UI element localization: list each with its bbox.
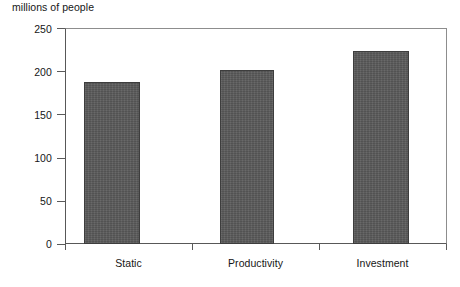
y-tick-label-50: 50 <box>8 196 52 207</box>
bar-static[interactable] <box>84 82 140 244</box>
y-tick-label-150: 150 <box>8 110 52 121</box>
x-axis-label-static: Static <box>65 257 192 269</box>
x-tick-mark-right <box>446 244 447 250</box>
bar-productivity[interactable] <box>220 70 274 245</box>
x-axis-label-productivity: Productivity <box>192 257 319 269</box>
y-tick-mark-0 <box>57 244 65 245</box>
x-tick-mark-left <box>65 244 66 250</box>
y-tick-label-0: 0 <box>8 239 52 250</box>
y-tick-label-200: 200 <box>8 67 52 78</box>
y-axis: 250 200 150 100 50 0 <box>0 0 52 287</box>
x-tick-mark-2 <box>319 244 320 250</box>
y-tick-mark-100 <box>57 158 65 159</box>
bar-chart-figure: millions of people 250 200 150 100 50 0 … <box>0 0 460 287</box>
y-tick-mark-250 <box>57 28 65 29</box>
y-tick-mark-50 <box>57 201 65 202</box>
y-tick-label-250: 250 <box>8 24 52 35</box>
y-tick-mark-200 <box>57 71 65 72</box>
bar-investment[interactable] <box>353 51 409 245</box>
y-tick-label-100: 100 <box>8 153 52 164</box>
x-axis-label-investment: Investment <box>319 257 446 269</box>
y-tick-mark-150 <box>57 114 65 115</box>
x-tick-mark-1 <box>192 244 193 250</box>
